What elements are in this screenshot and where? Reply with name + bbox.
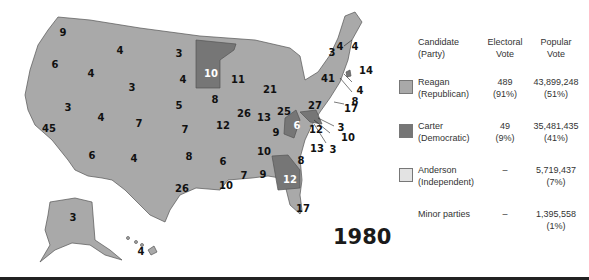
popular-votes: 35,481,435 bbox=[526, 120, 586, 132]
state-alaska bbox=[40, 198, 122, 262]
label-ms: 7 bbox=[241, 170, 248, 181]
legend-row-minor: Minor parties – 1,395,558 (1%) bbox=[398, 208, 588, 252]
label-ma: 14 bbox=[359, 65, 373, 76]
label-il: 26 bbox=[237, 108, 251, 119]
popular-cell: 1,395,558 (1%) bbox=[526, 208, 586, 232]
popular-cell: 43,899,248 (51%) bbox=[526, 76, 586, 100]
label-ri: 4 bbox=[357, 85, 364, 96]
label-nc: 13 bbox=[310, 143, 324, 154]
label-ca: 45 bbox=[42, 123, 56, 134]
label-pa: 27 bbox=[308, 100, 322, 111]
label-nh: 4 bbox=[337, 41, 344, 52]
label-mn: 10 bbox=[204, 68, 218, 79]
swatch-democratic bbox=[399, 124, 413, 138]
state-rhode-island bbox=[346, 70, 351, 77]
candidate-cell: Minor parties bbox=[418, 208, 488, 220]
label-mt: 4 bbox=[117, 45, 124, 56]
label-oh: 25 bbox=[277, 106, 291, 117]
legend-header: Candidate (Party) Electoral Vote Popular… bbox=[398, 36, 588, 76]
header-popular: Popular Vote bbox=[526, 36, 586, 60]
header-electoral-line1: Electoral bbox=[485, 36, 525, 48]
election-year: 1980 bbox=[333, 225, 391, 249]
candidate-name: Carter bbox=[418, 120, 488, 132]
popular-votes: 1,395,558 bbox=[526, 208, 586, 220]
label-dc: 3 bbox=[330, 144, 337, 155]
label-nj: 17 bbox=[344, 103, 358, 114]
label-me: 4 bbox=[352, 41, 359, 52]
label-mo: 12 bbox=[216, 120, 230, 131]
label-fl: 17 bbox=[296, 203, 310, 214]
candidate-cell: Carter (Democratic) bbox=[418, 120, 488, 144]
candidate-cell: Reagan (Republican) bbox=[418, 76, 488, 100]
popular-pct: (1%) bbox=[526, 220, 586, 232]
popular-pct: (7%) bbox=[526, 176, 586, 188]
label-ny: 41 bbox=[321, 73, 335, 84]
label-vt: 3 bbox=[329, 47, 336, 58]
candidate-name: Reagan bbox=[418, 76, 488, 88]
popular-votes: 5,719,437 bbox=[526, 164, 586, 176]
state-hawaii bbox=[148, 246, 157, 255]
legend-row-carter: Carter (Democratic) 49 (9%) 35,481,435 (… bbox=[398, 120, 588, 164]
electoral-votes: – bbox=[485, 208, 525, 220]
popular-cell: 35,481,435 (41%) bbox=[526, 120, 586, 144]
label-wa: 9 bbox=[60, 27, 67, 38]
label-ia: 8 bbox=[212, 94, 219, 105]
label-nd: 3 bbox=[176, 48, 183, 59]
hawaii-island bbox=[135, 241, 138, 244]
popular-cell: 5,719,437 (7%) bbox=[526, 164, 586, 188]
electoral-votes: 49 bbox=[485, 120, 525, 132]
candidate-name: Minor parties bbox=[418, 208, 488, 220]
label-ok: 8 bbox=[186, 151, 193, 162]
label-ga: 12 bbox=[283, 174, 297, 185]
label-in: 13 bbox=[257, 112, 271, 123]
label-mi: 21 bbox=[263, 84, 277, 95]
label-ar: 6 bbox=[220, 156, 227, 167]
label-tn: 10 bbox=[257, 146, 271, 157]
electoral-cell: 489 (91%) bbox=[485, 76, 525, 100]
label-nv: 3 bbox=[65, 102, 72, 113]
label-ks: 7 bbox=[182, 124, 189, 135]
label-az: 6 bbox=[89, 150, 96, 161]
candidate-name: Anderson bbox=[418, 164, 488, 176]
label-hi: 4 bbox=[138, 246, 145, 257]
legend: Candidate (Party) Electoral Vote Popular… bbox=[398, 36, 588, 252]
header-popular-line2: Vote bbox=[526, 48, 586, 60]
electoral-votes: – bbox=[485, 164, 525, 176]
swatch-republican bbox=[399, 80, 413, 94]
label-ky: 9 bbox=[273, 127, 280, 138]
legend-row-anderson: Anderson (Independent) – 5,719,437 (7%) bbox=[398, 164, 588, 208]
label-sc: 8 bbox=[298, 155, 305, 166]
legend-row-reagan: Reagan (Republican) 489 (91%) 43,899,248… bbox=[398, 76, 588, 120]
label-ut: 4 bbox=[98, 112, 105, 123]
label-wv: 6 bbox=[294, 120, 301, 131]
label-ak: 3 bbox=[70, 212, 77, 223]
candidate-cell: Anderson (Independent) bbox=[418, 164, 488, 188]
popular-pct: (51%) bbox=[526, 88, 586, 100]
label-md: 10 bbox=[341, 132, 355, 143]
candidate-party: (Republican) bbox=[418, 88, 488, 100]
label-or: 6 bbox=[52, 59, 59, 70]
header-electoral: Electoral Vote bbox=[485, 36, 525, 60]
label-ne: 5 bbox=[176, 100, 183, 111]
candidate-party: (Independent) bbox=[418, 176, 488, 188]
hawaii-island bbox=[127, 237, 130, 240]
label-co: 7 bbox=[136, 118, 143, 129]
popular-votes: 43,899,248 bbox=[526, 76, 586, 88]
header-popular-line1: Popular bbox=[526, 36, 586, 48]
electoral-cell: – bbox=[485, 164, 525, 176]
electoral-cell: 49 (9%) bbox=[485, 120, 525, 144]
label-nm: 4 bbox=[131, 153, 138, 164]
electoral-pct: (91%) bbox=[485, 88, 525, 100]
label-id: 4 bbox=[88, 68, 95, 79]
label-tx: 26 bbox=[175, 183, 189, 194]
popular-pct: (41%) bbox=[526, 132, 586, 144]
header-candidate-line1: Candidate bbox=[418, 36, 488, 48]
swatch-independent bbox=[399, 168, 413, 182]
electoral-pct: (9%) bbox=[485, 132, 525, 144]
label-wy: 3 bbox=[129, 82, 136, 93]
label-va: 12 bbox=[309, 124, 323, 135]
header-candidate: Candidate (Party) bbox=[418, 36, 488, 60]
label-sd: 4 bbox=[180, 74, 187, 85]
label-la: 10 bbox=[219, 180, 233, 191]
electoral-cell: – bbox=[485, 208, 525, 220]
